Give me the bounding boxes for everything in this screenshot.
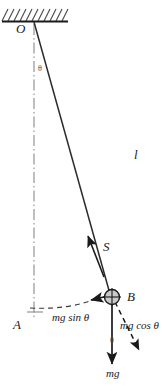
swing-arc — [30, 298, 98, 308]
pivot-angle-label: θ — [38, 65, 42, 73]
pendulum-string — [34, 22, 110, 294]
ceiling-hatching — [2, 9, 68, 21]
bob-label: B — [127, 290, 135, 303]
diagram-canvas — [0, 0, 162, 391]
weight-label: mg — [106, 368, 119, 379]
pendulum-diagram: O A B S l mg mg sin θ mg cos θ θ θ — [0, 0, 162, 391]
mg-cos-theta-label: mg cos θ — [120, 320, 159, 331]
bob-angle-label: θ — [110, 337, 114, 345]
mg-sin-theta-label: mg sin θ — [52, 312, 89, 323]
pivot-label: O — [16, 22, 25, 35]
pendulum-bob — [103, 288, 121, 306]
string-length-label: l — [134, 148, 138, 161]
tension-label: S — [103, 240, 110, 253]
rest-position-label: A — [13, 318, 21, 331]
